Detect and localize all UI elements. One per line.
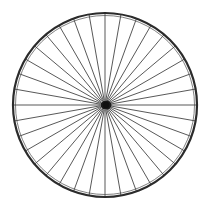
wheel-canvas — [0, 0, 211, 210]
bicycle-wheel-image — [0, 0, 211, 210]
wheel-hub-core — [103, 102, 109, 108]
